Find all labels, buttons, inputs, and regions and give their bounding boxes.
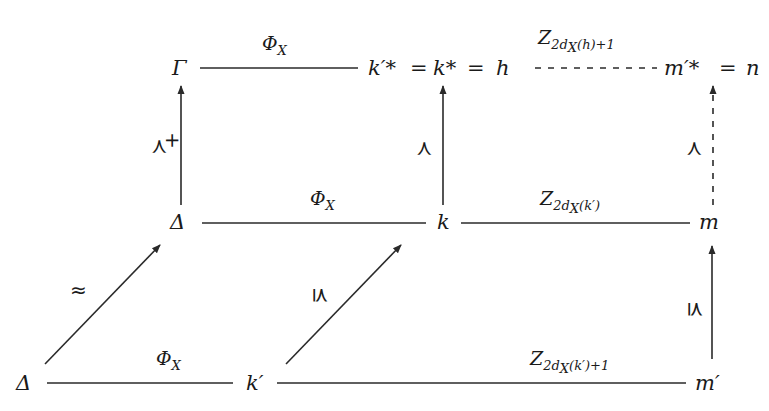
node-m-prime: m′ <box>695 371 720 395</box>
node-mid-k: k <box>437 210 450 234</box>
label-mid-phi: ΦX <box>310 187 336 213</box>
label-top-phi: ΦX <box>262 32 288 58</box>
svg-text:≺: ≺ <box>413 140 437 157</box>
node-m-prime-star: m′* <box>664 56 700 80</box>
svg-text:⪯: ⪯ <box>684 301 708 318</box>
label-left-diagonal: ≈ <box>70 278 87 302</box>
label-left-vertical: ≺ + <box>148 132 185 155</box>
label-bot-phi: ΦX <box>156 347 182 373</box>
label-bot-z: Z2dX(k′)+1 <box>529 347 609 376</box>
node-mid-m: m <box>699 210 719 234</box>
label-top-z: Z2dX(h)+1 <box>537 26 615 55</box>
node-h: h <box>496 56 510 80</box>
equals-sign-1: = <box>410 56 428 80</box>
node-n: n <box>746 56 760 80</box>
label-middle-vertical: ≺ <box>413 140 437 157</box>
node-bot-delta: Δ <box>15 371 31 395</box>
label-mid-z: Z2dX(k′) <box>539 187 600 216</box>
arrow-bot-delta-to-mid-delta <box>45 245 160 364</box>
label-right-vertical-lower: ⪯ <box>684 301 708 318</box>
node-k-prime-star: k′* <box>368 56 396 80</box>
node-gamma: Γ <box>171 56 188 80</box>
label-right-vertical-dashed: ≺ <box>683 140 707 157</box>
node-k-prime: k′ <box>246 371 264 395</box>
svg-text:≺: ≺ <box>683 140 707 157</box>
commutative-diagram: Γ ΦX k′* = k* = h Z2dX(h)+1 m′* = n ≺ + … <box>0 0 769 411</box>
label-middle-diagonal: ⪯ <box>309 287 333 304</box>
arrow-kprime-to-k <box>286 245 401 364</box>
node-k-star: k* <box>433 56 457 80</box>
node-mid-delta: Δ <box>169 210 185 234</box>
svg-text:⪯: ⪯ <box>309 287 333 304</box>
svg-text:+: + <box>161 132 185 149</box>
equals-sign-2: = <box>467 56 485 80</box>
equals-sign-3: = <box>719 56 737 80</box>
